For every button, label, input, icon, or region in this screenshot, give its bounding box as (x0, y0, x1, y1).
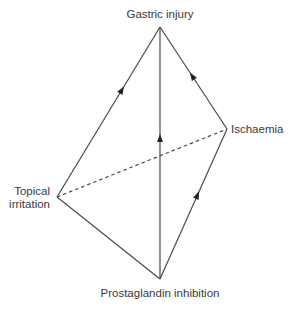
edge-topical-irritation-to-gastric-injury (57, 27, 160, 197)
arrowhead-icon (117, 85, 126, 95)
edge-topical-irritation-to-prostaglandin-inhibition (57, 197, 160, 279)
node-label-topical-line1: Topical (14, 185, 50, 197)
gastric-injury-diagram: Gastric injury Ischaemia Topical irritat… (0, 0, 292, 309)
arrowhead-icon (157, 134, 163, 142)
node-label-topical-line2: irritation (9, 198, 50, 210)
arrowhead-icon (193, 190, 202, 200)
edges (57, 27, 227, 279)
edge-prostaglandin-inhibition-to-ischaemia (160, 129, 227, 279)
node-label-prostaglandin-inhibition: Prostaglandin inhibition (101, 287, 220, 299)
arrowhead-icon (187, 71, 196, 81)
node-label-gastric-injury: Gastric injury (126, 8, 193, 20)
node-label-ischaemia: Ischaemia (231, 123, 284, 135)
